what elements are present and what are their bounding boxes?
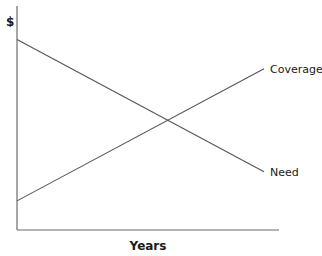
series-label-need: Need [270,166,299,179]
series-label-coverage: Coverage [270,63,322,76]
series-line-coverage [17,69,264,201]
series-layer: NeedCoverage [17,40,322,201]
y-axis-label: $ [6,15,14,29]
x-axis-label: Years [129,239,167,253]
series-line-need [17,40,264,172]
chart: $ Years NeedCoverage [0,0,322,256]
